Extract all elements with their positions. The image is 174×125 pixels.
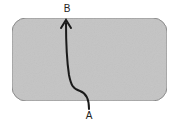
path-diagram: B A [0, 0, 174, 125]
region-rectangle [12, 18, 167, 101]
label-end-b: B [64, 4, 71, 14]
diagram-canvas [0, 0, 174, 125]
label-start-a: A [86, 111, 93, 121]
